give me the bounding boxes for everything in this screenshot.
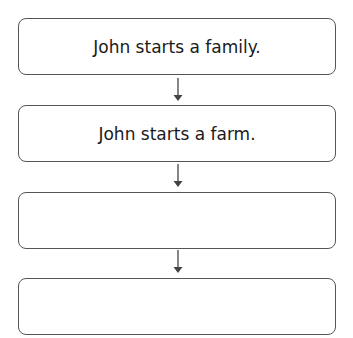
flow-step-1-text: John starts a family. bbox=[93, 37, 261, 57]
flow-step-4-blank[interactable] bbox=[18, 278, 336, 335]
arrow-down-icon bbox=[172, 164, 184, 188]
arrow-down-icon bbox=[172, 78, 184, 102]
flow-step-1: John starts a family. bbox=[18, 18, 336, 75]
flow-step-2-text: John starts a farm. bbox=[98, 124, 255, 144]
flow-step-3-blank[interactable] bbox=[18, 192, 336, 249]
arrow-down-icon bbox=[172, 250, 184, 274]
flow-step-2: John starts a farm. bbox=[18, 105, 336, 162]
